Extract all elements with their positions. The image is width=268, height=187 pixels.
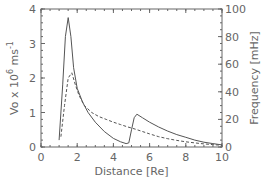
y-right-tick-label: 20 [225, 113, 239, 126]
line-chart: 024681001234020406080100 Distance [Re]Vo… [0, 0, 268, 187]
x-tick-label: 6 [146, 151, 153, 164]
y-left-tick-label: 0 [29, 141, 36, 154]
series-solid [59, 18, 222, 145]
x-tick-label: 2 [74, 151, 81, 164]
plot-border [41, 9, 222, 147]
series-dashed [61, 73, 222, 146]
data-series [59, 18, 222, 146]
y-left-axis-label: Vo x 106 ms-1 [6, 41, 21, 115]
y-left-tick-label: 4 [29, 3, 36, 16]
plot-frame [41, 9, 222, 147]
x-axis-label: Distance [Re] [94, 165, 168, 178]
axis-ticks: 024681001234020406080100 [29, 3, 246, 164]
y-left-tick-label: 1 [29, 107, 36, 120]
y-right-tick-label: 40 [225, 86, 239, 99]
y-left-tick-label: 2 [29, 72, 36, 85]
x-tick-label: 4 [110, 151, 117, 164]
y-right-tick-label: 100 [225, 3, 246, 16]
y-left-tick-label: 3 [29, 38, 36, 51]
y-right-axis-label: Frequency [mHz] [248, 31, 261, 125]
y-right-tick-label: 80 [225, 31, 239, 44]
y-right-tick-label: 0 [225, 141, 232, 154]
y-right-tick-label: 60 [225, 58, 239, 71]
x-tick-label: 8 [182, 151, 189, 164]
x-tick-label: 0 [38, 151, 45, 164]
